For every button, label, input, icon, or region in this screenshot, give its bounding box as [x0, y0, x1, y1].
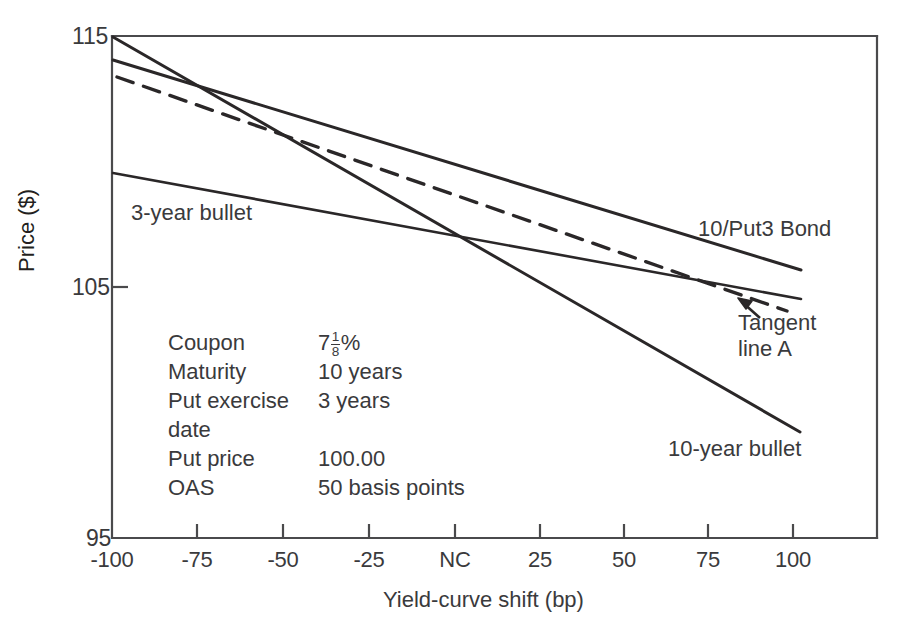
spec-value-coupon-fraction: 18	[331, 330, 341, 359]
chart-figure: 115 105 95 Price ($) -100 -75 -50 -25 NC…	[0, 0, 912, 631]
spec-value-coupon: 718%	[318, 330, 360, 359]
spec-key-put-price: Put price	[168, 446, 318, 472]
x-tick-label-NC: NC	[420, 549, 490, 571]
x-axis-title: Yield-curve shift (bp)	[383, 589, 584, 611]
x-tick-label--100: -100	[72, 549, 152, 571]
tangent-label-line1: Tangent	[738, 310, 816, 336]
x-tick-label--25: -25	[334, 549, 404, 571]
spec-value-put-price: 100.00	[318, 446, 385, 472]
series-annotation-3-year-bullet: 3-year bullet	[131, 202, 252, 224]
spec-row-put-price: Put price 100.00	[168, 446, 465, 475]
series-annotation-tangent-line-a: Tangent line A	[738, 310, 816, 361]
spec-value-oas: 50 basis points	[318, 475, 465, 501]
series-annotation-10-year-bullet: 10-year bullet	[668, 438, 801, 460]
spec-row-maturity: Maturity 10 years	[168, 359, 465, 388]
x-tick-label-50: 50	[594, 549, 654, 571]
x-axis-ticks	[197, 524, 793, 538]
spec-value-coupon-numerator: 1	[331, 330, 341, 345]
x-tick-label--75: -75	[162, 549, 232, 571]
spec-key-coupon: Coupon	[168, 330, 318, 356]
spec-key-oas: OAS	[168, 475, 318, 501]
spec-value-coupon-suffix: %	[341, 330, 361, 355]
y-tick-label-105: 105	[72, 276, 110, 299]
spec-key-put-exercise: Put exercise	[168, 388, 318, 414]
x-tick-label-75: 75	[678, 549, 738, 571]
spec-value-put-exercise: 3 years	[318, 388, 390, 414]
spec-key-put-exercise-cont: date	[168, 417, 318, 443]
x-tick-label-100: 100	[758, 549, 828, 571]
spec-value-maturity: 10 years	[318, 359, 402, 385]
bond-spec-table: Coupon 718% Maturity 10 years Put exerci…	[168, 330, 465, 504]
spec-row-put-exercise-date-cont: date	[168, 417, 465, 446]
x-tick-label-25: 25	[510, 549, 570, 571]
y-axis-title-wrap: Price ($)	[8, 132, 44, 272]
series-annotation-10-put3-bond: 10/Put3 Bond	[698, 218, 831, 240]
y-tick-label-115: 115	[72, 25, 108, 48]
spec-value-coupon-denominator: 8	[331, 345, 341, 359]
tangent-label-line2: line A	[738, 336, 816, 362]
spec-key-maturity: Maturity	[168, 359, 318, 385]
spec-row-coupon: Coupon 718%	[168, 330, 465, 359]
series-line-tangent-line-a	[117, 77, 787, 311]
spec-row-oas: OAS 50 basis points	[168, 475, 465, 504]
spec-row-put-exercise-date: Put exercise 3 years	[168, 388, 465, 417]
spec-value-coupon-whole: 7	[318, 330, 330, 355]
x-tick-label--50: -50	[248, 549, 318, 571]
y-axis-title: Price ($)	[14, 189, 40, 272]
